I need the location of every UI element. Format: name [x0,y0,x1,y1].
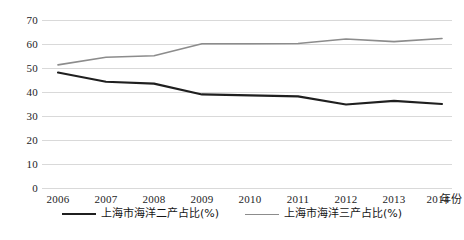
legend-swatch-tertiary-icon [245,214,279,215]
y-tick-label-20: 20 [8,135,38,146]
y-tick-label-70: 70 [8,15,38,26]
chart-figure: 70 60 50 40 30 20 10 0 2006 2007 2008 20… [0,0,464,240]
x-axis-title: 年份 [440,194,462,205]
legend-swatch-secondary-icon [62,213,96,215]
x-tick-label-2006: 2006 [36,194,80,205]
x-tick-label-2007: 2007 [84,194,128,205]
gridlines [42,21,452,189]
legend-item-tertiary[interactable]: 上海市海洋三产占比(%) [245,208,402,220]
series-line-tertiary [58,39,442,65]
legend-label-tertiary: 上海市海洋三产占比(%) [284,208,402,220]
y-tick-label-50: 50 [8,63,38,74]
y-tick-label-0: 0 [8,183,38,194]
y-tick-label-10: 10 [8,159,38,170]
legend-label-secondary: 上海市海洋二产占比(%) [101,208,219,220]
y-tick-label-40: 40 [8,87,38,98]
legend-item-secondary[interactable]: 上海市海洋二产占比(%) [62,208,219,220]
x-tick-label-2012: 2012 [324,194,368,205]
chart-legend: 上海市海洋二产占比(%) 上海市海洋三产占比(%) [0,206,464,222]
x-tick-label-2008: 2008 [132,194,176,205]
x-tick-label-2013: 2013 [372,194,416,205]
y-tick-label-30: 30 [8,111,38,122]
y-tick-label-60: 60 [8,39,38,50]
x-tick-label-2010: 2010 [228,194,272,205]
x-tick-label-2009: 2009 [180,194,224,205]
series-line-secondary [58,73,442,105]
x-tick-label-2011: 2011 [276,194,320,205]
